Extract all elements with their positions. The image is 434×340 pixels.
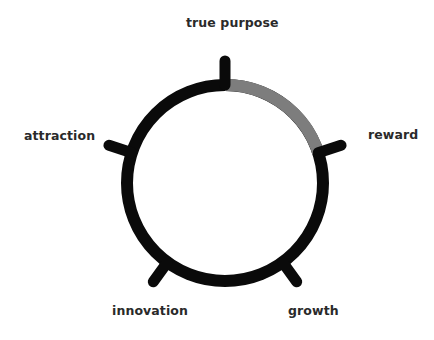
cycle-diagram — [0, 0, 434, 340]
tick-reward — [318, 145, 341, 152]
node-label-true-purpose: true purpose — [186, 15, 279, 30]
node-label-innovation: innovation — [112, 303, 188, 318]
tick-innovation — [153, 262, 167, 281]
node-label-reward: reward — [368, 127, 418, 142]
node-label-attraction: attraction — [24, 128, 95, 143]
tick-attraction — [109, 145, 132, 152]
highlight-arc — [225, 85, 318, 153]
tick-growth — [283, 262, 297, 281]
node-label-growth: growth — [288, 303, 339, 318]
